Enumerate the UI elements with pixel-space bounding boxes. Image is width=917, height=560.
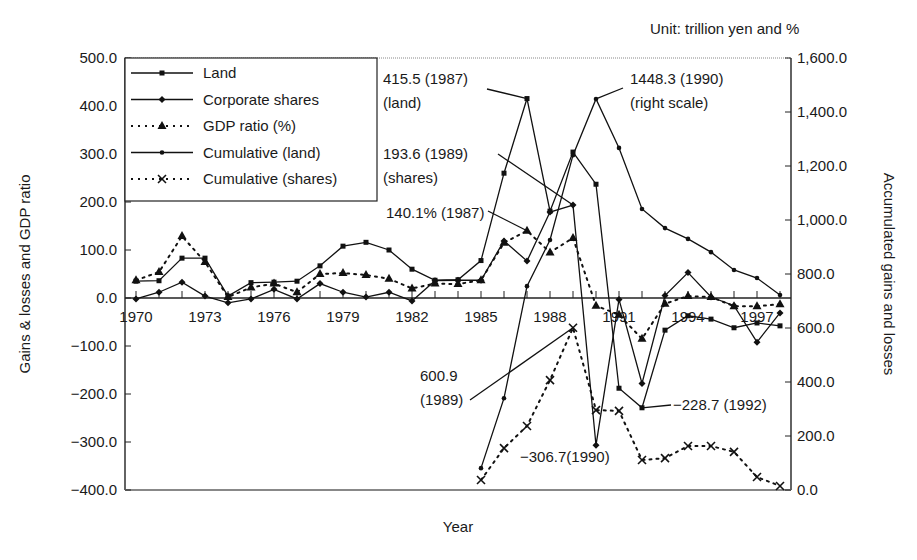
annotation: 1448.3 (1990)(right scale) — [596, 70, 723, 111]
annotation: 193.6 (1989)(shares) — [383, 145, 573, 205]
annotation: −306.7(1990) — [520, 448, 610, 465]
annotation-leader — [487, 89, 527, 99]
annotation-text: (right scale) — [630, 94, 708, 111]
legend-label: Land — [203, 64, 236, 81]
annotation-leader — [642, 405, 671, 408]
chart-container: Unit: trillion yen and % Year Gains & lo… — [0, 0, 917, 560]
legend-label: Corporate shares — [203, 91, 319, 108]
y-tick-label-right: 0.0 — [797, 481, 818, 498]
annotation-text: (1989) — [420, 391, 463, 408]
x-tick-label: 1973 — [188, 308, 221, 325]
line-chart: Unit: trillion yen and % Year Gains & lo… — [0, 0, 917, 560]
x-tick-label: 1976 — [257, 308, 290, 325]
y-tick-label-right: 1,400.0 — [797, 103, 847, 120]
y-tick-label-right: 1,200.0 — [797, 157, 847, 174]
y-tick-label-left: −100.0 — [71, 337, 117, 354]
y-tick-label-right: 1,000.0 — [797, 211, 847, 228]
legend: LandCorporate sharesGDP ratio (%)Cumulat… — [125, 58, 377, 201]
x-tick-label: 1970 — [119, 308, 152, 325]
y-axis-title-right: Accumulated gains and losses — [881, 173, 898, 376]
x-tick-label: 1985 — [464, 308, 497, 325]
annotation: 140.1% (1987) — [386, 204, 527, 231]
annotations: 415.5 (1987)(land)1448.3 (1990)(right sc… — [383, 70, 767, 465]
annotation-text: 140.1% (1987) — [386, 204, 484, 221]
y-tick-label-left: 300.0 — [79, 145, 117, 162]
annotation-text: (land) — [383, 94, 421, 111]
y-tick-label-right: 200.0 — [797, 427, 835, 444]
y-tick-label-right: 600.0 — [797, 319, 835, 336]
annotation: 415.5 (1987)(land) — [383, 70, 527, 111]
unit-note: Unit: trillion yen and % — [650, 20, 799, 37]
legend-label: Cumulative (shares) — [203, 170, 337, 187]
annotation-leader — [596, 88, 623, 99]
legend-label: GDP ratio (%) — [203, 117, 296, 134]
y-tick-label-left: 100.0 — [79, 241, 117, 258]
x-tick-label: 1982 — [395, 308, 428, 325]
y-tick-label-left: −300.0 — [71, 433, 117, 450]
annotation: −228.7 (1992) — [642, 396, 767, 413]
y-tick-label-left: 400.0 — [79, 97, 117, 114]
y-tick-label-left: 200.0 — [79, 193, 117, 210]
annotation-text: 600.9 — [420, 367, 458, 384]
legend-label: Cumulative (land) — [203, 144, 321, 161]
x-tick-label: 1988 — [533, 308, 566, 325]
annotation-text: 193.6 (1989) — [383, 145, 468, 162]
x-tick-label: 1979 — [326, 308, 359, 325]
annotation-text: (shares) — [383, 169, 438, 186]
annotation-text: −306.7(1990) — [520, 448, 610, 465]
series-cumulative-land — [479, 97, 783, 471]
y-tick-label-left: −200.0 — [71, 385, 117, 402]
annotation-text: 415.5 (1987) — [383, 70, 468, 87]
y-tick-label-left: 500.0 — [79, 49, 117, 66]
y-tick-label-left: −400.0 — [71, 481, 117, 498]
annotation-text: −228.7 (1992) — [673, 396, 767, 413]
y-tick-label-right: 400.0 — [797, 373, 835, 390]
annotation: 600.9(1989) — [420, 328, 573, 408]
x-axis-title: Year — [443, 518, 473, 535]
y-tick-label-right: 1,600.0 — [797, 49, 847, 66]
annotation-leader — [488, 211, 527, 231]
y-tick-label-left: 0.0 — [96, 289, 117, 306]
y-axis-title-left: Gains & losses and GDP ratio — [16, 175, 33, 374]
y-tick-label-right: 800.0 — [797, 265, 835, 282]
annotation-text: 1448.3 (1990) — [630, 70, 723, 87]
